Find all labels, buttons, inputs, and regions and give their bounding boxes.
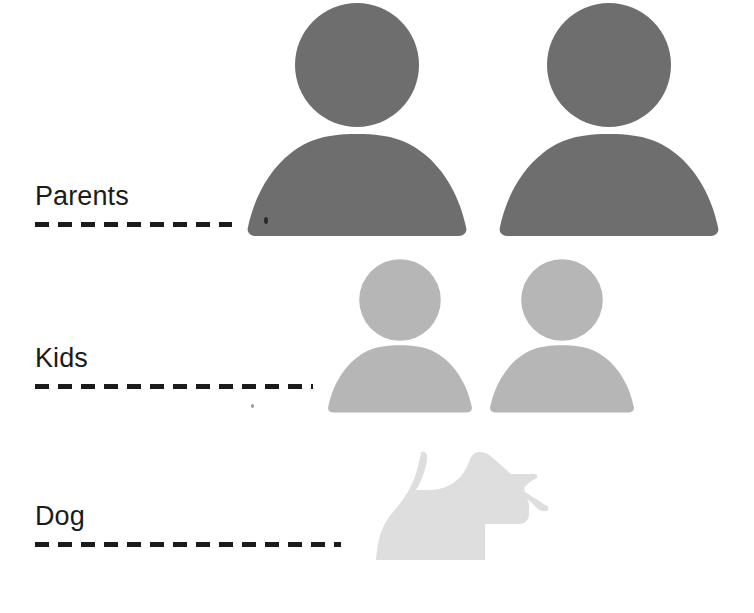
row-label-dog: Dog (35, 503, 85, 530)
person-icon-kid-1 (325, 258, 475, 413)
dashed-rule-dog (35, 542, 341, 547)
row-label-parents: Parents (35, 183, 129, 210)
infographic-canvas: Parents Kids (0, 0, 754, 613)
person-icon-kid-2 (487, 258, 637, 413)
scottie-dog-icon (375, 448, 550, 564)
person-icon-parent-1 (243, 2, 471, 236)
person-icon-parent-2 (495, 2, 723, 236)
row-label-kids: Kids (35, 345, 88, 372)
dashed-rule-parents (35, 222, 232, 227)
scan-speck (264, 217, 268, 224)
scan-speck (251, 404, 254, 408)
dashed-rule-kids (35, 384, 313, 389)
